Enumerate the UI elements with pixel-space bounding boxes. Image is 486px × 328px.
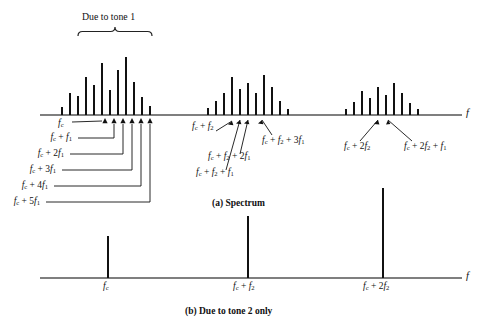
pointer-cluster2-1 <box>226 120 240 170</box>
leader-cascade-3 <box>62 124 132 170</box>
spectrum-figure-canvas <box>0 0 486 328</box>
arrowhead-cluster1-5 <box>147 118 152 123</box>
label-fc-5f1: fc + 5f1 <box>2 197 40 207</box>
label-fc-cluster1: fc <box>58 119 64 129</box>
label-fc-f2-3f1: fc + f2 + 3f1 <box>262 136 304 146</box>
leader-cascade-2 <box>70 124 123 154</box>
arrowhead-cluster1-2 <box>120 118 125 123</box>
pointer-cluster3-1 <box>388 120 412 141</box>
leader-cascade-1 <box>78 124 114 138</box>
caption-panel-b: (b) Due to tone 2 only <box>185 306 272 316</box>
label-b-fc-2f2: fc + 2f2 <box>363 282 389 292</box>
arrowhead-cluster1-1 <box>111 118 116 123</box>
pointer-cluster2-3 <box>262 120 272 135</box>
label-b-fc-f2: fc + f2 <box>233 282 255 292</box>
axis-label-f-panel-a: f <box>466 107 469 118</box>
label-fc-f2: fc + f2 <box>192 122 214 132</box>
bracket-label-due-to-tone-1: Due to tone 1 <box>82 11 135 22</box>
caption-panel-a: (a) Spectrum <box>212 198 265 208</box>
pointer-head-cluster3-1 <box>386 120 390 124</box>
pointer-head-cluster2-2 <box>244 120 249 124</box>
label-fc-f2-f1: fc + f2 + f1 <box>196 168 234 178</box>
pointer-head-cluster2-1 <box>236 120 241 124</box>
label-fc-f1: fc + f1 <box>2 133 72 143</box>
label-fc-2f2-f1: fc + 2f2 + f1 <box>404 142 446 152</box>
label-fc-3f1: fc + 3f1 <box>2 165 56 175</box>
axis-label-f-panel-b: f <box>466 270 469 281</box>
leader-fc <box>72 121 102 122</box>
brace-due-to-tone-1 <box>78 27 152 36</box>
label-fc-4f1: fc + 4f1 <box>2 181 48 191</box>
pointer-cluster2-0 <box>216 121 232 131</box>
label-fc-2f2: fc + 2f2 <box>344 142 370 152</box>
pointer-cluster2-2 <box>240 120 248 154</box>
arrowhead-cluster1-4 <box>138 118 143 123</box>
arrowhead-cluster1-0 <box>102 118 107 123</box>
pointer-head-cluster3-0 <box>374 120 379 124</box>
label-b-fc: fc <box>103 282 109 292</box>
figure-root <box>0 0 486 328</box>
arrowhead-cluster1-3 <box>129 118 134 123</box>
label-fc-f2-2f1: fc + f2 + 2f1 <box>208 152 250 162</box>
label-fc-2f1: fc + 2f1 <box>2 149 64 159</box>
